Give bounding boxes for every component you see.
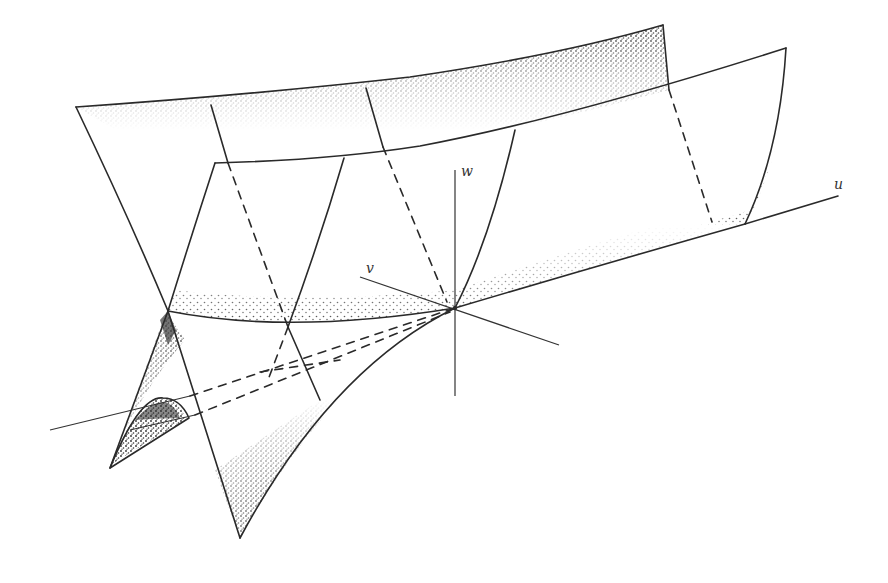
surface-diagram: w v u (0, 0, 888, 583)
ruling-lower (288, 327, 320, 400)
axis-label-w: w (461, 164, 473, 178)
surface-svg (0, 0, 888, 583)
u-axis-line (745, 196, 838, 224)
origin-point (453, 306, 457, 310)
hidden-ruling-2 (383, 147, 447, 302)
cusp-curve-right (240, 308, 455, 538)
axis-label-u: u (834, 177, 843, 191)
stipple-bottom-cusp (215, 360, 380, 538)
hidden-ruling-3 (669, 90, 712, 222)
axis-label-v: v (366, 261, 374, 275)
front-right-edge (745, 48, 786, 224)
hidden-ruling-4 (268, 327, 288, 380)
inner-left-edge (168, 163, 215, 311)
